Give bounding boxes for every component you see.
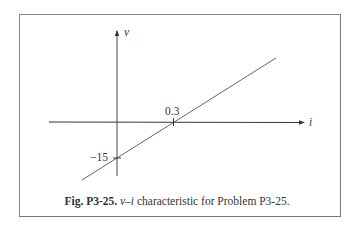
figure-caption: Fig. P3-25. v–i characteristic for Probl…	[0, 195, 354, 207]
i-axis-label: i	[309, 117, 312, 129]
caption-var: v–i	[120, 195, 134, 207]
y-intercept-label: −15	[90, 152, 108, 164]
v-axis-label: v	[124, 27, 129, 39]
caption-text: characteristic for Problem P3-25.	[134, 195, 290, 207]
caption-label: Fig. P3-25.	[64, 195, 117, 207]
characteristic-line	[82, 58, 276, 180]
i-axis	[49, 122, 304, 123]
x-intercept-label: 0.3	[165, 106, 179, 118]
